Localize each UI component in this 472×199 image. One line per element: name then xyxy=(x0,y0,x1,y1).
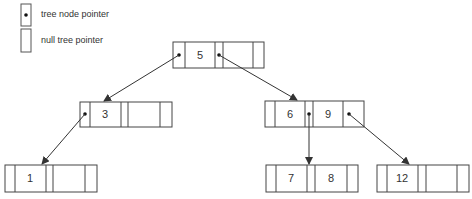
key-7: 7 xyxy=(288,172,294,184)
tree-node-7-8 xyxy=(266,165,358,192)
tree-node-12 xyxy=(377,165,469,192)
key-6: 6 xyxy=(287,108,293,120)
legend-pointer-icon xyxy=(21,4,31,26)
key-3: 3 xyxy=(102,108,108,120)
key-9: 9 xyxy=(325,108,331,120)
key-1: 1 xyxy=(27,172,33,184)
tree-node-3 xyxy=(80,102,172,127)
tree-node-root xyxy=(173,42,264,68)
key-5: 5 xyxy=(197,49,203,61)
tree-diagram: 5 3 6 9 1 7 8 12 xyxy=(0,0,472,199)
legend xyxy=(21,4,31,52)
legend-label-tree-node-pointer: tree node pointer xyxy=(41,9,109,19)
edge-root-to-3 xyxy=(104,55,179,101)
edge-6-9-to-12 xyxy=(349,114,409,164)
edge-3-to-1 xyxy=(42,114,85,164)
key-8: 8 xyxy=(328,172,334,184)
key-12: 12 xyxy=(396,172,408,184)
legend-label-null-tree-pointer: null tree pointer xyxy=(41,35,103,45)
legend-null-pointer-icon xyxy=(21,29,31,52)
tree-node-1 xyxy=(5,165,97,192)
